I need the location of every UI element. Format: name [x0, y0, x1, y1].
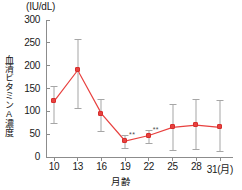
- error-bar: [77, 39, 78, 108]
- y-tick-mark: [46, 20, 50, 21]
- y-tick-label: 100: [24, 105, 40, 116]
- error-bar-cap: [98, 131, 105, 132]
- data-point-marker: [75, 67, 80, 72]
- error-bar-cap: [193, 149, 200, 150]
- x-tick-label: 22: [144, 161, 155, 172]
- x-tick-label: 10: [49, 161, 60, 172]
- x-tick-label: 13: [72, 161, 83, 172]
- y-tick-mark: [46, 157, 50, 158]
- error-bar-cap: [74, 39, 81, 40]
- y-tick-mark: [46, 65, 50, 66]
- x-tick-label: 16: [96, 161, 107, 172]
- error-bar-cap: [51, 123, 58, 124]
- error-bar-cap: [145, 130, 152, 131]
- error-bar-cap: [98, 99, 105, 100]
- y-tick-label: 250: [24, 37, 40, 48]
- plot-area: 0501001502002503001013161922252831(月)***…: [46, 20, 232, 157]
- error-bar: [54, 86, 55, 123]
- y-axis-unit-label: (IU/dL): [26, 1, 55, 12]
- data-point-marker: [98, 111, 103, 116]
- error-bar-cap: [217, 151, 224, 152]
- error-bar-cap: [169, 104, 176, 105]
- y-tick-mark: [46, 134, 50, 135]
- data-point-marker: [51, 98, 56, 103]
- error-bar-cap: [217, 100, 224, 101]
- y-tick-label: 300: [24, 14, 40, 25]
- y-tick-label: 50: [29, 128, 40, 139]
- data-point-marker: [122, 138, 127, 143]
- significance-annotation: **: [153, 126, 159, 133]
- error-bar-cap: [169, 150, 176, 151]
- y-tick-mark: [46, 111, 50, 112]
- y-axis-title: 血清ビタミンA濃度: [2, 40, 14, 152]
- series-line: [46, 20, 232, 157]
- y-tick-mark: [46, 42, 50, 43]
- data-point-marker: [146, 133, 151, 138]
- vitamin-a-line-chart: (IU/dL) 血清ビタミンA濃度 0501001502002503001013…: [0, 0, 242, 190]
- data-point-marker: [217, 124, 222, 129]
- x-tick-label: 19: [120, 161, 131, 172]
- error-bar-cap: [193, 99, 200, 100]
- error-bar-cap: [145, 143, 152, 144]
- y-tick-mark: [46, 88, 50, 89]
- data-point-marker: [170, 124, 175, 129]
- error-bar-cap: [74, 108, 81, 109]
- x-axis-title: 月齢: [0, 174, 242, 188]
- significance-annotation: **: [129, 131, 135, 138]
- error-bar-cap: [51, 86, 58, 87]
- error-bar-cap: [122, 135, 129, 136]
- data-point-marker: [193, 122, 198, 127]
- y-tick-label: 150: [24, 83, 40, 94]
- y-tick-label: 0: [35, 151, 40, 162]
- y-tick-label: 200: [24, 60, 40, 71]
- x-tick-label: 25: [167, 161, 178, 172]
- x-axis-line: [46, 157, 233, 158]
- error-bar-cap: [122, 148, 129, 149]
- x-tick-label: 28: [191, 161, 202, 172]
